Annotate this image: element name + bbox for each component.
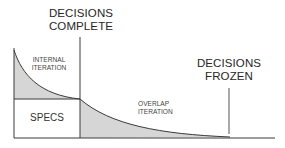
label-line: DECISIONS	[190, 57, 268, 70]
label-line: DECISIONS	[42, 7, 120, 20]
label-line: COMPLETE	[42, 20, 120, 33]
decisions-frozen-label: DECISIONS FROZEN	[190, 57, 268, 83]
internal-iteration-label: INTERNAL ITERATION	[24, 56, 74, 71]
label-line: ITERATION	[138, 108, 188, 116]
label-line: INTERNAL	[24, 56, 74, 64]
label-line: ITERATION	[24, 64, 74, 72]
overlap-iteration-label: OVERLAP ITERATION	[138, 100, 188, 115]
specs-label: SPECS	[14, 112, 80, 123]
label-line: FROZEN	[190, 70, 268, 83]
label-line: OVERLAP	[138, 100, 188, 108]
decisions-complete-label: DECISIONS COMPLETE	[42, 7, 120, 33]
